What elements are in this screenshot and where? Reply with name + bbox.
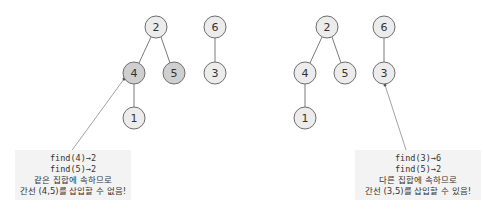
node-4-right: 4 (294, 62, 316, 84)
node-5-left: 5 (163, 62, 185, 84)
note-left-line2: find(5)→2 (19, 164, 127, 175)
svg-text:2: 2 (153, 21, 160, 34)
note-right: find(3)→6 find(5)→2 다른 집합에 속하므로 간선 (3,5)… (355, 150, 481, 200)
note-right-line2: find(5)→2 (359, 164, 477, 175)
svg-text:1: 1 (131, 112, 138, 125)
svg-text:5: 5 (342, 67, 349, 80)
svg-text:5: 5 (171, 67, 178, 80)
note-right-line4: 간선 (3,5)를 삽입할 수 있음! (359, 186, 477, 197)
edge-2-4-left (139, 37, 151, 63)
svg-text:6: 6 (381, 21, 388, 34)
svg-text:3: 3 (381, 67, 388, 80)
node-3-left: 3 (204, 62, 226, 84)
svg-text:3: 3 (212, 67, 219, 80)
left-forest: 264531 (123, 16, 226, 129)
edge-2-5-left (161, 37, 170, 63)
node-3-right: 3 (373, 62, 395, 84)
svg-text:4: 4 (302, 67, 309, 80)
node-6-right: 6 (373, 16, 395, 38)
note-right-line1: find(3)→6 (359, 153, 477, 164)
node-2-left: 2 (145, 16, 167, 38)
pointer-line-right (385, 85, 407, 153)
note-left-line3: 같은 집합에 속하므로 (19, 175, 127, 186)
node-5-right: 5 (334, 62, 356, 84)
right-forest: 264531 (294, 16, 395, 129)
node-4-left: 4 (123, 62, 145, 84)
node-2-right: 2 (316, 16, 338, 38)
edge-2-4-right (310, 37, 322, 63)
pointer-line-left (70, 79, 124, 153)
note-left-line4: 간선 (4,5)를 삽입할 수 없음! (19, 186, 127, 197)
node-1-left: 1 (123, 107, 145, 129)
node-1-right: 1 (294, 107, 316, 129)
note-left-line1: find(4)→2 (19, 153, 127, 164)
svg-text:4: 4 (131, 67, 138, 80)
note-left: find(4)→2 find(5)→2 같은 집합에 속하므로 간선 (4,5)… (15, 150, 131, 200)
svg-text:2: 2 (324, 21, 331, 34)
node-6-left: 6 (204, 16, 226, 38)
svg-text:1: 1 (302, 112, 309, 125)
note-right-line3: 다른 집합에 속하므로 (359, 175, 477, 186)
svg-text:6: 6 (212, 21, 219, 34)
edge-2-5-right (332, 37, 341, 63)
